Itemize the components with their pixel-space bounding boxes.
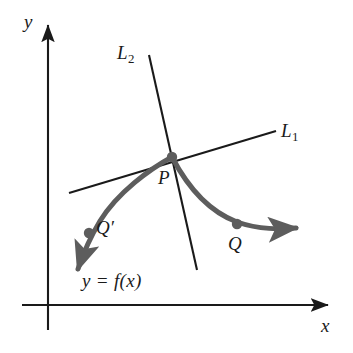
point-p-marker [167, 152, 177, 162]
point-q-marker [232, 219, 242, 229]
point-q-label: Q [228, 234, 242, 253]
x-axis-label: x [321, 316, 329, 335]
line-l2-label-base: L [117, 42, 128, 63]
graph-svg [0, 0, 353, 353]
line-l2-label-subscript: 2 [128, 51, 135, 66]
line-l1-label-subscript: 1 [292, 129, 299, 144]
line-l1-label-base: L [281, 120, 292, 141]
function-curve-label: y = f(x) [82, 271, 142, 290]
point-q-prime-marker [84, 228, 94, 238]
axes-group [22, 25, 328, 330]
function-curve-right-branch [172, 157, 296, 229]
figure-canvas: y x L1 L2 P Q Q′ y = f(x) [0, 0, 353, 353]
line-l1-label: L1 [281, 121, 299, 144]
point-p-label: P [158, 168, 170, 187]
y-axis-label: y [24, 12, 32, 31]
point-q-prime-label: Q′ [96, 218, 114, 237]
line-l2-label: L2 [117, 43, 135, 66]
